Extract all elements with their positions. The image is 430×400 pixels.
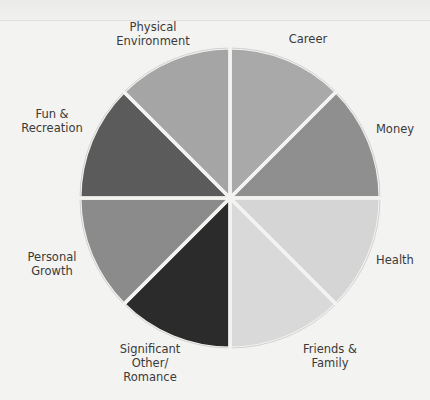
label-personal-growth: Personal Growth <box>12 250 92 278</box>
label-significant-other: Significant Other/ Romance <box>105 342 195 384</box>
label-career: Career <box>278 32 338 46</box>
label-fun-recreation: Fun & Recreation <box>12 107 92 135</box>
label-friends-family: Friends & Family <box>290 342 370 370</box>
label-health: Health <box>370 253 420 267</box>
label-money: Money <box>370 122 420 136</box>
life-wheel-pie-chart <box>0 0 430 400</box>
label-physical-environment: Physical Environment <box>108 20 198 48</box>
